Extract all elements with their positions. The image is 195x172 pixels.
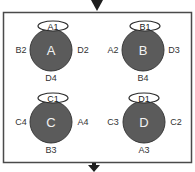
frame-box: [4, 13, 192, 163]
node-d-top-label: D1: [138, 94, 150, 104]
node-b-center-label: B: [139, 43, 148, 58]
node-c-right-label: A4: [77, 117, 88, 127]
node-d-bottom-label: A3: [138, 145, 149, 155]
node-c-bottom-label: B3: [45, 145, 56, 155]
input-arrow-icon: [91, 0, 103, 11]
node-d-left-label: C3: [107, 117, 119, 127]
node-b-right-label: D3: [168, 45, 180, 55]
node-a-left-label: B2: [15, 45, 26, 55]
diagram-canvas: A1 A B2 D2 D4 B1 B A2 D3 B4 C1 C C4 A4 B…: [0, 0, 195, 172]
node-b-top-label: B1: [139, 22, 150, 32]
node-a-top-label: A1: [47, 22, 58, 32]
node-b-left-label: A2: [107, 45, 118, 55]
node-d-right-label: C2: [170, 117, 182, 127]
node-c-top-label: C1: [47, 94, 59, 104]
output-arrow-icon: [88, 163, 100, 172]
node-a-bottom-label: D4: [45, 73, 57, 83]
node-a-right-label: D2: [77, 45, 89, 55]
node-a-center-label: A: [47, 43, 56, 58]
node-c-center-label: C: [46, 115, 55, 130]
node-c-left-label: C4: [15, 117, 27, 127]
node-b-bottom-label: B4: [137, 73, 148, 83]
node-d-center-label: D: [139, 115, 148, 130]
